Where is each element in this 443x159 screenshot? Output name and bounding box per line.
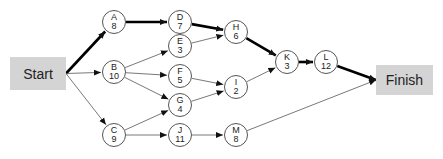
activity-node-a: A8 xyxy=(102,10,126,34)
edge-h-to-k xyxy=(246,38,275,55)
activity-node-j: J11 xyxy=(168,123,192,147)
activity-node-e: E3 xyxy=(168,34,192,58)
edge-l-to-finish xyxy=(337,66,376,80)
edge-start-to-a xyxy=(66,32,105,74)
activity-node-k: K3 xyxy=(275,50,299,74)
activity-node-m: M8 xyxy=(224,123,248,147)
edge-b-to-e xyxy=(125,51,168,68)
edge-e-to-h xyxy=(192,35,224,43)
edge-m-to-finish xyxy=(247,80,376,131)
edge-i-to-k xyxy=(247,68,276,82)
activity-duration: 2 xyxy=(233,87,238,96)
edge-start-to-b xyxy=(66,72,101,73)
activity-node-g: G4 xyxy=(168,93,192,117)
activity-node-l: L12 xyxy=(314,50,338,74)
edge-c-to-g xyxy=(125,110,168,130)
activity-duration: 3 xyxy=(177,46,182,55)
activity-duration: 11 xyxy=(175,135,184,144)
edge-f-to-i xyxy=(192,78,223,84)
finish-box: Finish xyxy=(376,65,433,95)
edge-b-to-g xyxy=(125,77,169,99)
activity-duration: 8 xyxy=(111,22,116,31)
activity-node-f: F5 xyxy=(168,64,192,88)
activity-duration: 3 xyxy=(284,62,289,71)
activity-duration: 6 xyxy=(233,32,238,41)
activity-node-b: B10 xyxy=(102,60,126,84)
start-box: Start xyxy=(10,57,66,90)
activity-duration: 9 xyxy=(111,135,116,144)
activity-duration: 8 xyxy=(233,135,238,144)
activity-duration: 5 xyxy=(177,76,182,85)
activity-duration: 7 xyxy=(177,22,182,31)
edge-d-to-h xyxy=(192,24,223,30)
activity-duration: 10 xyxy=(109,72,119,81)
activity-duration: 4 xyxy=(177,105,182,114)
edge-start-to-c xyxy=(66,74,106,125)
edge-b-to-f xyxy=(126,73,167,75)
activity-node-i: I2 xyxy=(224,75,248,99)
activity-node-d: D7 xyxy=(168,10,192,34)
activity-node-h: H6 xyxy=(224,20,248,44)
activity-node-c: C9 xyxy=(102,123,126,147)
edge-g-to-i xyxy=(191,91,223,101)
activity-duration: 12 xyxy=(321,62,331,71)
